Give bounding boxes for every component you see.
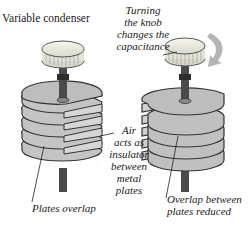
- label-line: metal: [98, 172, 160, 184]
- left-condenser: [22, 41, 102, 192]
- label-line: capacitance: [110, 40, 176, 52]
- label-line: insulator: [98, 148, 160, 160]
- label-plates-overlap: Plates overlap: [32, 202, 96, 214]
- label-line: Turning: [110, 4, 176, 16]
- label-line: plates reduced: [167, 205, 242, 217]
- label-knob: Turning the knob changes the capacitance: [110, 4, 176, 52]
- label-line: Overlap between: [167, 193, 242, 205]
- label-line: between: [98, 160, 160, 172]
- label-overlap-reduced: Overlap between plates reduced: [167, 193, 242, 217]
- label-line: plates: [98, 184, 160, 196]
- label-air: Air acts as insulator between metal plat…: [98, 124, 160, 196]
- rotation-arrow-icon: [207, 33, 223, 67]
- label-line: Air: [98, 124, 160, 136]
- label-line: changes the: [110, 28, 176, 40]
- label-line: acts as: [98, 136, 160, 148]
- label-line: the knob: [110, 16, 176, 28]
